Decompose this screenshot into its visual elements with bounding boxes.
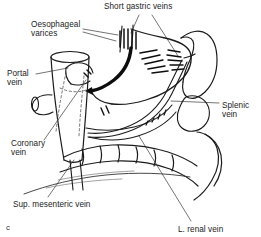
label-oesophageal-varices-line2: varices [31,29,57,38]
label-splenic-vein-line2: vein [222,110,237,119]
pancreas-outline [86,105,176,140]
label-oesophageal-varices: Oesophagealvarices [31,20,80,39]
label-splenic-vein-line1: Splenic [222,101,249,110]
label-splenic-vein: Splenicvein [222,101,249,120]
collateral-marks [101,106,109,115]
coronary-vein-vessel [91,48,131,91]
ivc-portal-cylinder [51,52,89,163]
portal-vein-valve-marks [84,70,91,77]
hidden-lines-dashed [56,72,86,136]
superior-mesenteric-vein-vessel [70,160,83,190]
label-oesophageal-varices-line1: Oesophageal [31,20,80,29]
label-sup-mesenteric-vein: Sup. mesenteric vein [13,200,90,210]
label-coronary-vein-line2: vein [11,148,26,157]
label-l-renal-vein: L. renal vein [178,225,223,235]
mesentery-outline [24,173,190,194]
label-portal-vein-line1: Portal [7,69,29,78]
left-kidney-outline [177,96,209,131]
descending-colon-outline [194,132,222,200]
figure-letter: c [6,223,10,232]
label-coronary-vein-line1: Coronary [11,139,45,148]
left-renal-vein-stub [32,95,54,115]
label-portal-vein: Portalvein [7,69,29,88]
leader-oesophageal-varices [83,29,118,35]
spleen-outline [181,31,217,98]
coronary-vein-arrowhead [85,87,93,95]
label-portal-vein-line2: vein [7,78,22,87]
oesophageal-varices-hatching [120,29,136,49]
splenic-vein-tributaries [146,110,166,125]
leader-coronary-vein [44,80,86,140]
portal-vein-branch [66,63,93,85]
label-coronary-vein: Coronaryvein [11,139,45,158]
leader-splenic-vein [171,101,219,103]
leader-l-renal-vein [139,136,191,221]
stomach-outline [92,29,191,104]
leader-oesophageal-varices-2 [83,32,116,41]
short-gastric-veins-hatching [140,50,168,73]
label-short-gastric-veins: Short gastric veins [104,2,172,12]
anatomical-figure: Short gastric veins Oesophagealvarices P… [0,0,261,237]
